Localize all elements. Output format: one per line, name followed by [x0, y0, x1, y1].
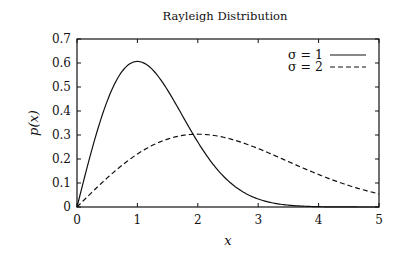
y-tick-label: 0.3: [52, 128, 71, 142]
legend-label: σ = 2: [288, 59, 323, 74]
y-tick-label: 0.6: [52, 56, 71, 70]
x-tick-label: 2: [194, 213, 202, 227]
x-tick-label: 4: [315, 213, 323, 227]
y-tick-label: 0.4: [52, 104, 71, 118]
series-line-sigma-1: [77, 61, 379, 207]
x-tick-label: 0: [73, 213, 81, 227]
x-tick-label: 5: [375, 213, 383, 227]
x-axis-label: x: [224, 233, 232, 248]
y-tick-label: 0: [63, 200, 71, 214]
y-tick-label: 0.2: [52, 152, 71, 166]
rayleigh-chart: 01234500.10.20.30.40.50.60.7xp(x)σ = 1σ …: [0, 0, 398, 263]
y-tick-label: 0.1: [52, 176, 71, 190]
y-tick-label: 0.5: [52, 80, 71, 94]
x-tick-label: 1: [134, 213, 142, 227]
series-line-sigma-2: [77, 134, 379, 207]
y-axis-label: p(x): [26, 110, 41, 136]
y-tick-label: 0.7: [52, 32, 71, 46]
x-tick-label: 3: [254, 213, 262, 227]
plot-frame: [77, 39, 379, 207]
